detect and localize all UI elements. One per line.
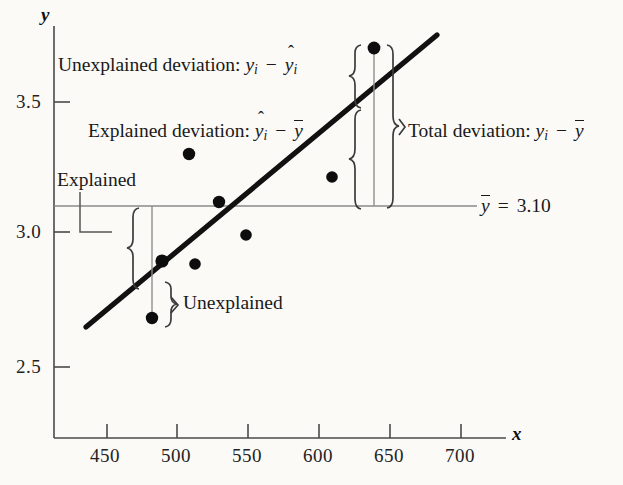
- annotation-explained-deviation: Explained deviation: ˆyi − y: [88, 121, 303, 143]
- brace-explained-right: [349, 110, 361, 209]
- y-tick-label-2.5: 2.5: [16, 357, 41, 376]
- data-point: [146, 312, 158, 324]
- data-point: [155, 254, 168, 267]
- annotation-total-deviation: Total deviation: yi − y: [408, 121, 584, 143]
- data-point: [213, 196, 225, 208]
- explained-term1: ˆyi: [255, 121, 267, 143]
- mean-line-label: y = 3.10: [481, 196, 551, 216]
- total-deviation-prefix: Total deviation:: [408, 120, 531, 141]
- unexplained-deviation-prefix: Unexplained deviation:: [58, 54, 241, 75]
- mean-line-value: 3.10: [517, 195, 551, 216]
- y-tick-label-3.5: 3.5: [16, 92, 41, 111]
- x-tick-label-500: 500: [161, 446, 191, 465]
- data-point: [189, 258, 201, 270]
- x-tick-label-550: 550: [232, 446, 262, 465]
- label-unexplained-short: Unexplained: [183, 293, 283, 313]
- total-term2: y: [575, 121, 584, 141]
- x-tick-label-600: 600: [303, 446, 333, 465]
- explained-deviation-prefix: Explained deviation:: [88, 120, 250, 141]
- annotation-unexplained-deviation: Unexplained deviation: yi − ˆyi: [58, 55, 297, 77]
- mean-line-ybar: y: [481, 196, 490, 216]
- x-axis-label: x: [512, 424, 522, 443]
- total-deviation-pointer: [399, 119, 405, 135]
- data-point: [368, 42, 381, 55]
- y-tick-label-3.0: 3.0: [16, 222, 41, 241]
- x-axis-ticks: [107, 424, 461, 438]
- x-tick-label-700: 700: [445, 446, 475, 465]
- data-point: [240, 229, 252, 241]
- explained-leader-line: [80, 192, 112, 232]
- data-point: [183, 148, 195, 160]
- total-minus: −: [553, 120, 570, 141]
- unexplained-term1: yi: [245, 54, 257, 75]
- brace-explained-left: [127, 208, 139, 289]
- explained-minus: −: [272, 120, 289, 141]
- unexplained-term2: ˆyi: [285, 55, 297, 77]
- x-tick-label-450: 450: [90, 446, 120, 465]
- data-point: [326, 171, 338, 183]
- explained-term2: y: [294, 121, 303, 141]
- regression-line: [86, 35, 437, 327]
- y-axis-ticks: [54, 102, 70, 367]
- y-axis-label: y: [41, 5, 49, 24]
- x-tick-label-650: 650: [374, 446, 404, 465]
- axes: [54, 26, 506, 438]
- label-explained-short: Explained: [57, 170, 136, 190]
- total-term1: yi: [536, 120, 548, 141]
- mean-line-equals: =: [495, 195, 512, 216]
- brace-unexplained-left: [165, 282, 177, 327]
- regression-deviation-figure: y x 3.5 3.0 2.5 450 500 550 600 650 700 …: [0, 0, 623, 485]
- unexplained-minus: −: [263, 54, 280, 75]
